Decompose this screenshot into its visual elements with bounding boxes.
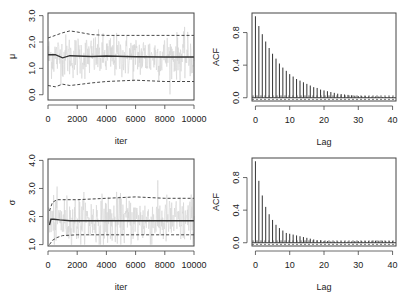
x-axis-label: iter <box>115 282 128 292</box>
lower-quantile-line <box>48 80 194 87</box>
plot-frame <box>252 13 396 101</box>
y-tick-label: 0.0 <box>27 88 37 101</box>
x-axis: 010203040Lag <box>253 251 398 292</box>
x-tick-label: 2000 <box>67 260 87 270</box>
y-tick-label: 2.0 <box>27 36 37 49</box>
x-axis-label: Lag <box>316 282 331 292</box>
x-axis: 0200040006000800010000iter <box>45 251 206 292</box>
x-tick-label: 10000 <box>181 114 206 124</box>
x-tick-label: 30 <box>353 260 363 270</box>
y-tick-label: 2.0 <box>27 210 37 223</box>
upper-quantile-line <box>50 197 195 211</box>
x-tick-label: 6000 <box>126 114 146 124</box>
y-axis-label: σ <box>7 199 17 205</box>
x-tick-label: 10 <box>285 115 295 125</box>
x-axis-label: Lag <box>316 137 331 147</box>
x-tick-label: 6000 <box>126 260 146 270</box>
y-axis: 1.02.03.04.0σ <box>7 154 43 251</box>
x-axis-label: iter <box>115 136 128 146</box>
upper-quantile-line <box>48 31 194 38</box>
y-tick-label: 0.8 <box>231 171 241 184</box>
y-tick-label: 0.0 <box>231 236 241 249</box>
y-axis: 0.00.40.8ACF <box>211 171 247 249</box>
y-tick-label: 3.0 <box>27 182 37 195</box>
x-tick-label: 4000 <box>96 114 116 124</box>
y-axis-label: μ <box>7 54 17 59</box>
y-tick-label: 0.8 <box>231 26 241 39</box>
x-tick-label: 10000 <box>181 260 206 270</box>
x-tick-label: 20 <box>319 260 329 270</box>
y-axis-label: ACF <box>211 47 221 66</box>
y-axis: 0.00.40.8ACF <box>211 26 247 104</box>
figure: 0200040006000800010000iter0.01.02.03.0μ0… <box>0 0 405 292</box>
x-tick-label: 8000 <box>155 114 175 124</box>
x-tick-label: 40 <box>388 260 398 270</box>
x-tick-label: 2000 <box>67 114 87 124</box>
y-tick-label: 0.4 <box>231 204 241 217</box>
y-axis: 0.01.02.03.0μ <box>7 9 43 101</box>
trace-mu-panel: 0200040006000800010000iter0.01.02.03.0μ <box>7 9 207 146</box>
y-tick-label: 0.0 <box>231 91 241 104</box>
x-tick-label: 8000 <box>155 260 175 270</box>
y-axis-label: ACF <box>211 192 221 211</box>
acf-mu-panel: 010203040Lag0.00.40.8ACF <box>211 13 398 147</box>
x-tick-label: 0 <box>253 260 258 270</box>
x-tick-label: 4000 <box>96 260 116 270</box>
x-axis: 0200040006000800010000iter <box>45 105 206 146</box>
x-tick-label: 10 <box>285 260 295 270</box>
trace-line <box>48 27 194 95</box>
y-tick-label: 1.0 <box>27 238 37 251</box>
y-tick-label: 4.0 <box>27 154 37 167</box>
x-tick-label: 0 <box>45 260 50 270</box>
y-tick-label: 3.0 <box>27 9 37 22</box>
x-axis: 010203040Lag <box>253 106 398 147</box>
plot-frame <box>252 158 396 246</box>
x-tick-label: 0 <box>45 114 50 124</box>
acf-sigma-panel: 010203040Lag0.00.40.8ACF <box>211 158 398 292</box>
trace-sigma-panel: 0200040006000800010000iter1.02.03.04.0σ <box>7 154 207 292</box>
x-tick-label: 0 <box>253 115 258 125</box>
x-tick-label: 30 <box>353 115 363 125</box>
y-tick-label: 1.0 <box>27 62 37 75</box>
y-tick-label: 0.4 <box>231 59 241 72</box>
x-tick-label: 40 <box>388 115 398 125</box>
x-tick-label: 20 <box>319 115 329 125</box>
